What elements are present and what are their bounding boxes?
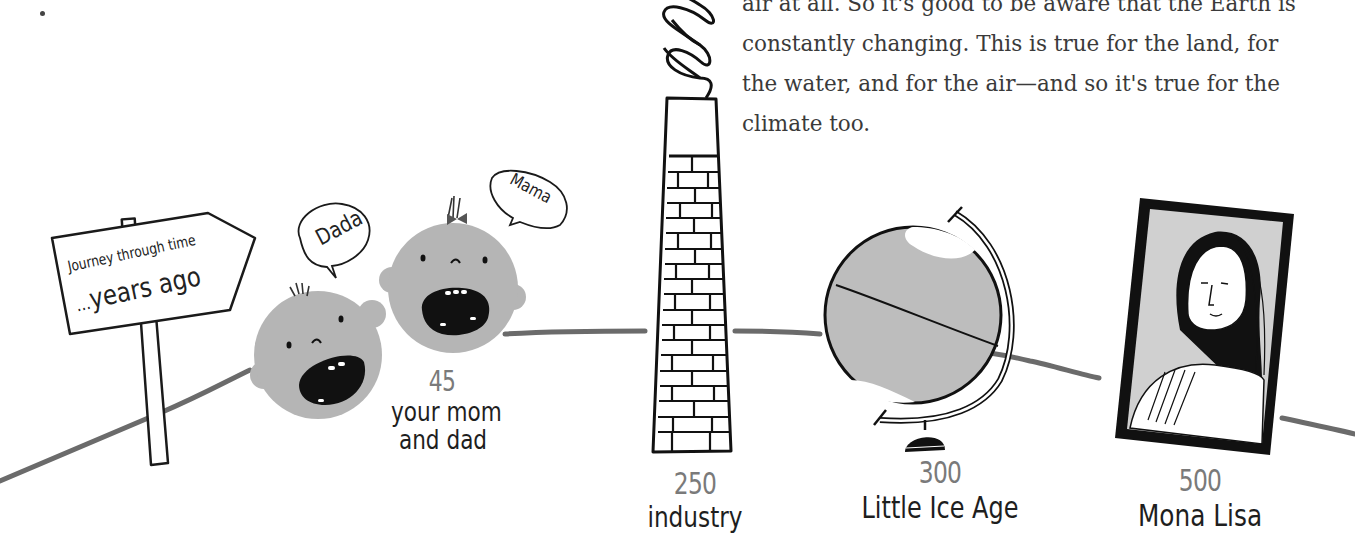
timeline-year-250: 250	[664, 466, 726, 501]
mona-lisa-portrait-icon	[1115, 198, 1294, 455]
body-line: constantly changing. This is true for th…	[742, 24, 1342, 64]
body-line: the water, and for the air—and so it's t…	[742, 64, 1342, 104]
timeline-label-little-ice-age: Little Ice Age	[844, 490, 1036, 525]
body-paragraph: air at all. So it's good to be aware tha…	[742, 0, 1342, 144]
baby-face-mom-icon	[379, 196, 526, 353]
timeline-label-industry: industry	[643, 500, 747, 534]
body-line: climate too.	[742, 104, 1342, 144]
label-line: your mom	[391, 398, 495, 426]
timeline-year-45: 45	[419, 365, 466, 398]
body-line: air at all. So it's good to be aware tha…	[742, 0, 1342, 24]
globe-icon	[825, 207, 1012, 452]
book-page: air at all. So it's good to be aware tha…	[0, 0, 1355, 538]
timeline-year-300: 300	[909, 455, 971, 490]
baby-face-dad-icon	[250, 283, 386, 419]
timeline-label-mona-lisa: Mona Lisa	[1136, 497, 1264, 533]
smoke-coil-icon	[664, 0, 714, 98]
timeline-year-500: 500	[1169, 463, 1231, 498]
brick-chimney-icon	[653, 98, 731, 452]
label-line: and dad	[391, 426, 495, 454]
timeline-label-mom-dad: your mom and dad	[391, 398, 495, 454]
stray-dot	[40, 11, 45, 16]
